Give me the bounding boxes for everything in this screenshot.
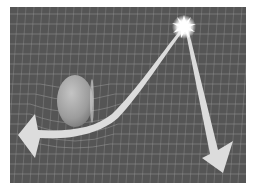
starburst-icon xyxy=(172,15,196,39)
diagram-canvas xyxy=(10,7,246,183)
sphere-icon xyxy=(57,75,93,127)
sphere-highlight xyxy=(90,79,94,123)
lensing-diagram xyxy=(10,7,246,183)
